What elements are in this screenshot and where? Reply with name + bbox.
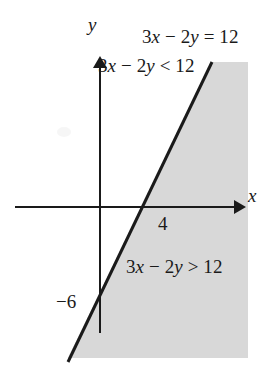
y-intercept-tick-label: −6: [56, 291, 76, 313]
paper-artifact: [57, 127, 71, 137]
x-axis-label: x: [248, 185, 256, 207]
x-intercept-tick-label: 4: [158, 213, 168, 235]
boundary-line-equation-label: 3x − 2y = 12: [142, 26, 239, 48]
shaded-region-wedge: [68, 62, 248, 358]
inequality-graph-figure: 3x − 2y = 12 3x − 2y < 12 3x − 2y > 12 y…: [0, 0, 279, 376]
y-axis-label: y: [88, 14, 96, 36]
region-label-greater-than: 3x − 2y > 12: [126, 256, 223, 278]
region-label-less-than: 3x − 2y < 12: [98, 55, 195, 77]
